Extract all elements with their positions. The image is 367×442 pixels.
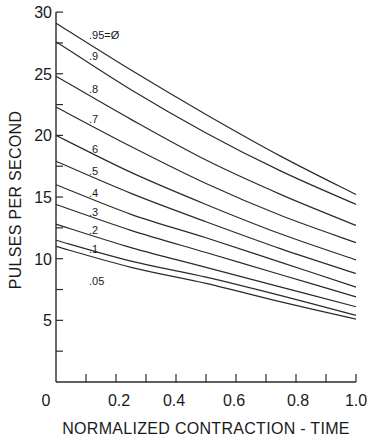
curve-label: .3	[89, 206, 98, 218]
curve-6	[56, 135, 356, 260]
y-tick-labels: 51015202530	[34, 4, 52, 329]
curve-label: .8	[89, 83, 98, 95]
y-tick-label: 15	[34, 189, 52, 206]
curve-label: .9	[89, 50, 98, 62]
x-axis: 00.20.40.60.81.0 NORMALIZED CONTRACTION …	[42, 374, 367, 437]
y-ticks	[56, 12, 63, 351]
x-tick-label: 0.8	[287, 392, 309, 409]
curve-95	[56, 23, 356, 194]
x-tick-label: 0	[42, 392, 51, 409]
y-tick-label: 25	[34, 66, 52, 83]
y-tick-label: 30	[34, 4, 52, 21]
y-tick-label: 10	[34, 251, 52, 268]
curve-9	[56, 42, 356, 205]
curve-label: .1	[89, 243, 98, 255]
x-tick-label: 0.6	[223, 392, 245, 409]
curve-label: .2	[89, 224, 98, 236]
x-tick-label: 0.2	[108, 392, 130, 409]
curve-label: .95=Ø	[89, 29, 120, 41]
pulse-rate-chart: 51015202530 PULSES PER SECOND 00.20.40.6…	[0, 0, 367, 442]
y-tick-label: 5	[43, 312, 52, 329]
x-axis-title: NORMALIZED CONTRACTION - TIME	[62, 420, 350, 437]
curve-label: .4	[89, 187, 98, 199]
x-ticks	[86, 374, 356, 382]
x-tick-label: 1.0	[345, 392, 367, 409]
curve-label: .5	[89, 165, 98, 177]
y-tick-label: 20	[34, 127, 52, 144]
curve-4	[56, 185, 356, 287]
curve-label: .6	[89, 143, 98, 155]
y-axis: 51015202530 PULSES PER SECOND	[7, 4, 63, 382]
y-axis-title: PULSES PER SECOND	[7, 111, 24, 289]
x-tick-label: 0.4	[163, 392, 185, 409]
curve-5	[56, 161, 356, 273]
curve-labels: .95=Ø.9.8.7.6.5.4.3.2.1.05	[89, 29, 120, 286]
curve-label: .05	[89, 275, 104, 287]
x-tick-labels: 00.20.40.60.81.0	[42, 392, 367, 409]
curve-label: .7	[89, 113, 98, 125]
curve-2	[56, 224, 356, 307]
